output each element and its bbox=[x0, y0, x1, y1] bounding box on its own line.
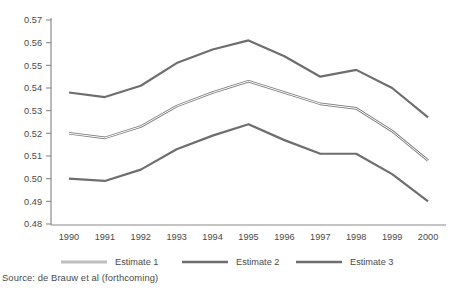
x-axis-ticks: 1990199119921993199419951996199719981999… bbox=[59, 232, 439, 242]
legend-label: Estimate 1 bbox=[115, 257, 158, 267]
series-line bbox=[69, 40, 428, 117]
line-chart: 0.570.560.550.540.530.520.510.500.490.48… bbox=[0, 0, 451, 270]
source-note: Source: de Brauw et al (forthcoming) bbox=[2, 272, 158, 283]
series-line-outer bbox=[69, 81, 428, 160]
x-tick-label: 1999 bbox=[382, 232, 402, 242]
y-tick-label: 0.50 bbox=[24, 174, 42, 184]
series-lines bbox=[69, 40, 428, 201]
legend-label: Estimate 2 bbox=[236, 257, 279, 267]
x-tick-label: 2000 bbox=[418, 232, 438, 242]
y-tick-label: 0.55 bbox=[24, 61, 42, 71]
x-tick-label: 1990 bbox=[59, 232, 79, 242]
x-tick-label: 1997 bbox=[310, 232, 330, 242]
chart-figure: 0.570.560.550.540.530.520.510.500.490.48… bbox=[0, 0, 451, 291]
x-tick-label: 1991 bbox=[95, 232, 115, 242]
x-tick-label: 1994 bbox=[202, 232, 222, 242]
y-tick-label: 0.54 bbox=[24, 83, 42, 93]
y-tick-label: 0.53 bbox=[24, 106, 42, 116]
x-tick-label: 1993 bbox=[166, 232, 186, 242]
y-tick-label: 0.57 bbox=[24, 15, 42, 25]
x-tick-label: 1996 bbox=[274, 232, 294, 242]
series-line bbox=[69, 124, 428, 201]
y-tick-label: 0.52 bbox=[24, 129, 42, 139]
y-tick-label: 0.48 bbox=[24, 219, 42, 229]
y-tick-label: 0.51 bbox=[24, 151, 42, 161]
x-tick-label: 1998 bbox=[346, 232, 366, 242]
x-tick-label: 1992 bbox=[131, 232, 151, 242]
y-tick-label: 0.56 bbox=[24, 38, 42, 48]
y-axis-ticks: 0.570.560.550.540.530.520.510.500.490.48 bbox=[24, 15, 51, 229]
chart-legend: Estimate 1Estimate 2Estimate 3 bbox=[61, 257, 393, 267]
legend-label: Estimate 3 bbox=[350, 257, 393, 267]
x-tick-label: 1995 bbox=[238, 232, 258, 242]
y-tick-label: 0.49 bbox=[24, 197, 42, 207]
